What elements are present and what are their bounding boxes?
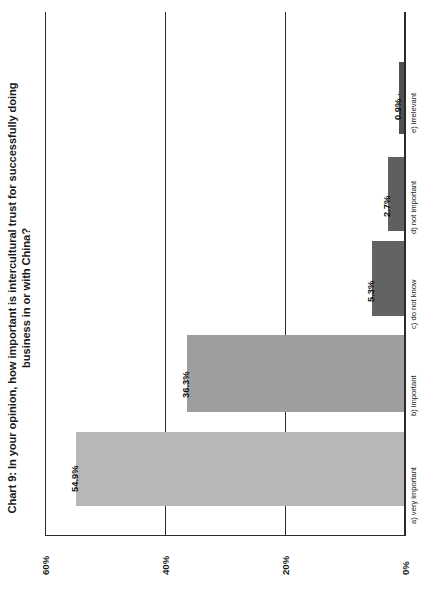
gridline-60 — [45, 12, 46, 535]
bar-important — [187, 335, 404, 412]
bar-not-important — [388, 157, 404, 231]
chart-title: Chart 9: In your opinion, how important … — [0, 0, 40, 596]
bar-do-not-know — [372, 241, 404, 316]
chart-title-line-2: business in or with China? — [20, 6, 34, 590]
chart-title-line-1: Chart 9: In your opinion, how important … — [6, 83, 18, 514]
value-axis — [45, 535, 405, 536]
bar-very-important — [76, 432, 404, 506]
chart-container: Chart 9: In your opinion, how important … — [0, 0, 430, 596]
category-axis — [404, 12, 406, 536]
